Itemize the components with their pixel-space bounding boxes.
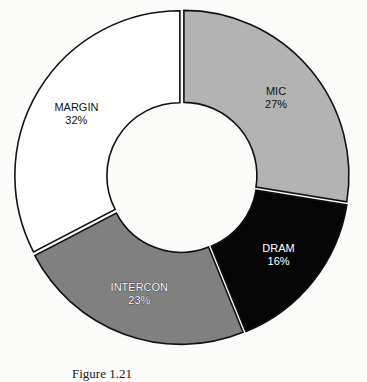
slice-label-margin-name: MARGIN	[54, 101, 98, 113]
slice-label-intercon-pct: 23%	[128, 294, 150, 306]
slice-label-intercon-name: INTERCON	[111, 281, 169, 293]
slice-margin	[15, 11, 180, 252]
slice-label-dram-pct: 16%	[268, 255, 290, 267]
slice-label-mic-pct: 27%	[265, 98, 287, 110]
slice-label-mic-name: MIC	[266, 85, 286, 97]
figure-caption: Figure 1.21	[72, 366, 132, 382]
donut-slices	[15, 10, 349, 344]
slice-label-dram-name: DRAM	[262, 242, 294, 254]
slice-label-margin-pct: 32%	[65, 114, 87, 126]
